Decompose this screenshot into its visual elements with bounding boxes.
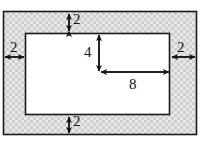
bottom-margin-label: 2 xyxy=(73,114,81,129)
right-margin-label: 2 xyxy=(177,40,185,55)
inner-height-label: 4 xyxy=(84,45,92,60)
inner-rectangle xyxy=(26,34,170,115)
inner-width-label: 8 xyxy=(129,77,137,92)
top-margin-label: 2 xyxy=(73,12,81,27)
geometry-diagram: 2 2 2 2 4 8 xyxy=(0,0,200,146)
diagram-canvas xyxy=(0,0,200,146)
left-margin-label: 2 xyxy=(10,40,18,55)
